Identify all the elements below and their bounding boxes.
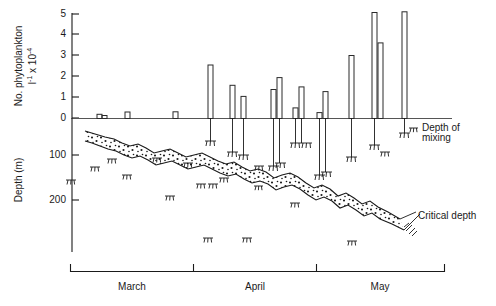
abundance-ticklabel-2: 2 (60, 70, 66, 81)
rake-icon (242, 238, 252, 243)
month-label-april: April (245, 281, 265, 292)
bar (208, 65, 213, 119)
rake-icon (369, 145, 380, 150)
bar (323, 92, 328, 119)
bar (372, 13, 377, 119)
rake-icon (219, 178, 229, 183)
bar (349, 56, 354, 119)
month-axis: March April May (70, 264, 445, 292)
abundance-ticklabel-3: 3 (60, 49, 66, 60)
depth-axis: 100 200 (49, 118, 79, 252)
depth-of-mixing-annotation: Depth of mixing (409, 122, 460, 143)
rake-icon (380, 152, 390, 157)
rake-icon (254, 186, 263, 190)
bar (293, 108, 298, 119)
rake-icon (275, 163, 286, 168)
bar (378, 43, 383, 119)
bar (241, 96, 246, 118)
mixing-symbols (66, 118, 410, 246)
bar (402, 12, 407, 119)
depth-of-mixing-label-line2: mixing (422, 132, 451, 143)
abundance-ticklabel-5: 5 (60, 8, 66, 19)
figure-root: 0 1 2 3 4 5 No. phytoplankton l-1 x 10-4 (0, 0, 496, 306)
abundance-axis-label-line1: No. phytoplankton (13, 26, 24, 107)
rake-icon (183, 163, 193, 168)
rake-icon (90, 167, 100, 172)
rake-icon (290, 203, 300, 208)
rake-icon (290, 143, 301, 148)
rake-icon (346, 157, 357, 162)
phytoplankton-depth-chart: 0 1 2 3 4 5 No. phytoplankton l-1 x 10-4 (0, 0, 496, 306)
bar (299, 87, 304, 119)
bar (173, 112, 178, 119)
critical-depth-label: Critical depth (418, 210, 476, 221)
bar (317, 113, 322, 119)
rake-icon (107, 159, 117, 164)
rake-icon (238, 155, 249, 160)
rake-icon (409, 128, 418, 132)
abundance-axis-label-line2: l-1 x 10-4 (26, 48, 38, 84)
critical-depth-annotation: Critical depth (418, 210, 476, 221)
abundance-ticklabel-0: 0 (60, 112, 66, 123)
depth-ticklabel-100: 100 (49, 149, 66, 160)
critical-depth-tail (400, 212, 420, 236)
abundance-axis: 0 1 2 3 4 5 (60, 8, 79, 123)
rake-icon (314, 175, 325, 180)
bar (271, 90, 276, 119)
rake-icon (227, 152, 238, 157)
mixing-depth-band (85, 131, 420, 236)
rake-icon (66, 180, 76, 185)
depth-axis-label: Depth (m) (13, 158, 24, 202)
bar (102, 116, 107, 119)
month-label-may: May (371, 281, 390, 292)
rake-icon (203, 238, 213, 243)
bar (277, 78, 282, 119)
rake-icon (152, 158, 162, 163)
bar (230, 85, 235, 118)
rake-icon (399, 133, 410, 138)
unit-times-ten: x 10 (27, 54, 38, 76)
rake-icon (347, 241, 357, 246)
abundance-ticklabel-4: 4 (60, 28, 66, 39)
abundance-axis-label: No. phytoplankton l-1 x 10-4 (13, 26, 38, 107)
rake-icon (165, 196, 175, 201)
rake-icon (205, 141, 216, 146)
rake-icon (254, 166, 264, 171)
rake-icon (196, 184, 206, 189)
svg-text:Depth (m): Depth (m) (13, 158, 24, 202)
phytoplankton-bars (97, 12, 407, 119)
rake-icon (208, 184, 218, 189)
bar (125, 112, 130, 119)
rake-icon (301, 143, 312, 148)
month-label-march: March (118, 281, 146, 292)
bar (97, 114, 102, 118)
rake-icon (321, 172, 332, 177)
rake-icon (268, 166, 279, 171)
abundance-ticklabel-1: 1 (60, 91, 66, 102)
depth-ticklabel-200: 200 (49, 194, 66, 205)
rake-icon (122, 175, 132, 180)
unit-ten-exponent: -4 (26, 48, 33, 54)
